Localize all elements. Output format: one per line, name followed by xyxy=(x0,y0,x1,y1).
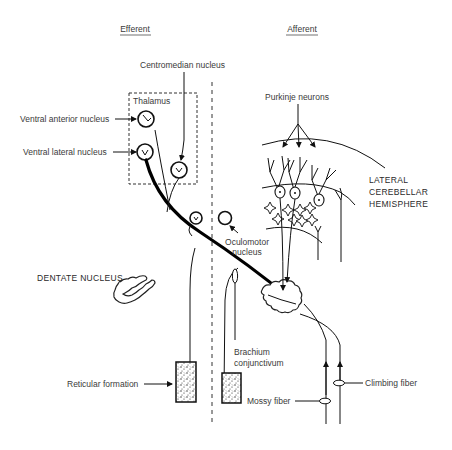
purkinje-arrow-2 xyxy=(298,124,299,147)
lateral-label: LATERAL xyxy=(369,175,408,185)
purkinje-neurons-label: Purkinje neurons xyxy=(265,92,329,102)
reticular-fiber xyxy=(190,248,195,380)
purkinje-cell-1 xyxy=(268,156,290,198)
red-nucleus-circle xyxy=(190,212,202,224)
granular-layer-arc xyxy=(266,227,322,243)
reticular-formation-label: Reticular formation xyxy=(67,379,139,389)
cerebellar-surface xyxy=(262,139,385,168)
oculomotor-label-line2: nucleus xyxy=(232,247,261,257)
mossy-fiber-ending xyxy=(315,226,321,260)
climbing-fiber-marker xyxy=(334,380,345,386)
climbing-fiber-ending xyxy=(335,188,342,262)
purkinje-cell-2 xyxy=(288,157,307,199)
mossy-fiber-label: Mossy fiber xyxy=(247,396,291,406)
climbing-fiber xyxy=(300,314,340,424)
afferent-title: Afferent xyxy=(287,24,317,34)
centromedian-nucleus xyxy=(171,162,187,178)
centromedian-pointer xyxy=(181,72,184,160)
mossy-fiber xyxy=(304,304,326,424)
centromedian-nucleus-label: Centromedian nucleus xyxy=(140,60,225,70)
reticular-formation-contralateral xyxy=(222,373,241,403)
cerebellar-label: CEREBELLAR xyxy=(369,187,428,197)
reticular-formation xyxy=(176,362,196,402)
purkinje-arrow-1 xyxy=(283,124,298,147)
hemisphere-label: HEMISPHERE xyxy=(369,199,428,209)
ventral-lateral-nucleus xyxy=(137,144,153,160)
climbing-fiber-label: Climbing fiber xyxy=(365,378,417,388)
mossy-fiber-marker xyxy=(320,398,331,404)
dentate-nucleus-label: DENTATE NUCLEUS xyxy=(37,273,123,283)
granule-cells xyxy=(264,202,318,227)
purkinje-axon-1 xyxy=(280,198,283,290)
thalamus-label: Thalamus xyxy=(133,96,170,106)
brachium-label-line1: Brachium xyxy=(234,347,270,357)
oculomotor-label-line1: Oculomotor xyxy=(225,237,269,247)
purkinje-arrow-3 xyxy=(298,124,315,147)
ventral-anterior-nucleus-label: Ventral anterior nucleus xyxy=(20,114,109,124)
efferent-title: Efferent xyxy=(120,24,150,34)
descending-fiber xyxy=(224,268,238,390)
efferent-header: Efferent xyxy=(120,24,151,35)
oculomotor-arrow xyxy=(230,226,238,233)
dentate-nucleus-pathway xyxy=(261,280,301,313)
ventral-lateral-nucleus-label: Ventral lateral nucleus xyxy=(23,147,107,157)
purkinje-cell-3 xyxy=(312,165,336,206)
brachium-ellipse xyxy=(232,269,237,283)
cerebellar-pathways-diagram: Efferent Afferent Thalamus Centromedian … xyxy=(0,0,452,450)
oculomotor-nucleus xyxy=(219,212,232,225)
efferent-tract xyxy=(146,160,292,300)
brachium-label-line2: conjunctivum xyxy=(234,358,284,368)
afferent-header: Afferent xyxy=(286,24,318,35)
